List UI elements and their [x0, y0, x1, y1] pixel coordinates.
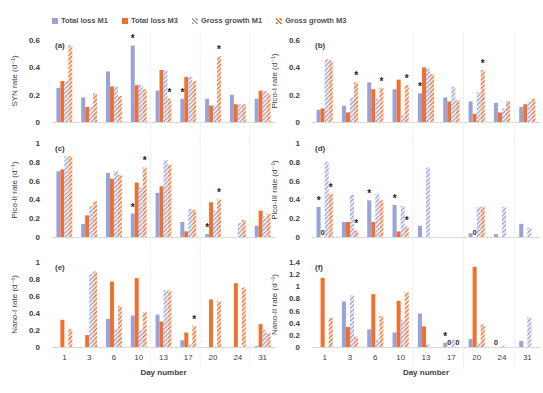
- bar-total-loss-m1: [180, 222, 184, 237]
- bar-gross-growth-m3: [405, 227, 409, 237]
- bar-total-loss-m3: [397, 231, 401, 237]
- bar-total-loss-m3: [209, 299, 213, 347]
- zero-value-label: 0: [321, 229, 325, 236]
- significance-marker: *: [393, 193, 397, 204]
- bar-total-loss-m1: [367, 82, 371, 122]
- bar-gross-growth-m3: [192, 210, 196, 237]
- significance-marker: *: [405, 215, 409, 226]
- bar-gross-growth-m3: [354, 230, 358, 237]
- bar-total-loss-m1: [180, 340, 184, 347]
- bar-gross-growth-m1: [401, 320, 405, 347]
- x-tick-label: 1: [62, 353, 67, 362]
- x-tick-label: 10: [396, 353, 405, 362]
- significance-marker: *: [205, 222, 209, 233]
- bar-total-loss-m3: [321, 108, 325, 122]
- y-tick-label: 0.4: [289, 195, 301, 204]
- bar-total-loss-m3: [85, 335, 89, 347]
- bar-gross-growth-m3: [242, 104, 246, 122]
- y-tick-label: 0.6: [289, 177, 301, 186]
- significance-marker: *: [143, 155, 147, 166]
- bar-gross-growth-m3: [143, 167, 147, 237]
- y-tick-label: 0.4: [289, 63, 301, 72]
- x-tick-label: 24: [498, 353, 507, 362]
- bar-total-loss-m1: [255, 346, 259, 347]
- bar-gross-growth-m1: [350, 295, 354, 347]
- bar-total-loss-m1: [367, 329, 371, 347]
- bar-gross-growth-m1: [238, 104, 242, 122]
- bar-gross-growth-m1: [139, 330, 143, 347]
- x-tick-label: 31: [258, 353, 267, 362]
- bar-total-loss-m1: [393, 332, 397, 347]
- y-tick-label: 0.6: [29, 36, 41, 45]
- significance-marker: *: [217, 44, 221, 55]
- y-tick-label: 1.2: [289, 270, 301, 279]
- significance-marker: *: [317, 195, 321, 206]
- bar-gross-growth-m1: [502, 207, 506, 237]
- significance-marker: *: [405, 73, 409, 84]
- zero-value-label: 0: [473, 229, 477, 236]
- bar-gross-growth-m1: [164, 290, 168, 347]
- bar-gross-growth-m3: [379, 88, 383, 122]
- bar-gross-growth-m1: [375, 194, 379, 237]
- bar-gross-growth-m3: [506, 102, 510, 123]
- bar-total-loss-m1: [56, 88, 60, 122]
- bar-gross-growth-m1: [527, 317, 531, 347]
- bar-total-loss-m3: [321, 278, 325, 347]
- bar-gross-growth-m3: [329, 318, 333, 347]
- significance-marker: *: [329, 182, 333, 193]
- bar-gross-growth-m1: [325, 59, 329, 122]
- bar-gross-growth-m3: [68, 45, 72, 122]
- bar-total-loss-m1: [519, 341, 523, 347]
- bar-gross-growth-m1: [114, 329, 118, 347]
- bar-gross-growth-m3: [329, 194, 333, 237]
- bar-total-loss-m3: [184, 333, 188, 347]
- bar-total-loss-m3: [422, 67, 426, 122]
- bar-gross-growth-m3: [405, 85, 409, 122]
- y-tick-label: 0.8: [289, 294, 301, 303]
- bar-gross-growth-m3: [217, 56, 221, 122]
- bar-total-loss-m3: [110, 86, 114, 122]
- bar-total-loss-m3: [259, 324, 263, 347]
- bar-gross-growth-m1: [502, 108, 506, 122]
- bar-total-loss-m1: [317, 110, 321, 122]
- bar-gross-growth-m3: [481, 70, 485, 122]
- bar-total-loss-m1: [393, 89, 397, 122]
- bar-gross-growth-m1: [114, 86, 118, 122]
- bar-gross-growth-m3: [192, 326, 196, 347]
- bar-total-loss-m1: [56, 171, 60, 237]
- bar-total-loss-m1: [205, 99, 209, 122]
- y-axis-label: Nano-II rate (d⁻¹): [270, 274, 279, 335]
- bar-total-loss-m3: [498, 112, 502, 122]
- y-tick-label: 0: [296, 118, 301, 127]
- bar-total-loss-m3: [184, 231, 188, 237]
- bar-total-loss-m1: [255, 99, 259, 122]
- x-tick-label: 13: [159, 353, 168, 362]
- y-tick-label: 0.4: [289, 319, 301, 328]
- bar-gross-growth-m3: [143, 89, 147, 122]
- bar-total-loss-m3: [346, 327, 350, 347]
- bar-gross-growth-m1: [188, 344, 192, 347]
- bar-total-loss-m1: [469, 339, 473, 347]
- panel-label: (c): [55, 144, 65, 153]
- significance-marker: *: [367, 188, 371, 199]
- significance-marker: *: [481, 58, 485, 69]
- x-axis-label: Day number: [140, 368, 186, 377]
- bar-total-loss-m3: [60, 81, 64, 122]
- significance-marker: *: [354, 70, 358, 81]
- bar-gross-growth-m1: [139, 187, 143, 237]
- x-tick-label: 13: [422, 353, 431, 362]
- bar-gross-growth-m1: [451, 86, 455, 122]
- y-tick-label: 0.4: [29, 309, 41, 318]
- zero-value-label: 0: [447, 339, 451, 346]
- y-tick-label: 1: [296, 282, 301, 291]
- significance-marker: *: [217, 187, 221, 198]
- y-tick-label: 0.2: [289, 331, 301, 340]
- bar-gross-growth-m3: [93, 93, 97, 122]
- panel-label: (b): [315, 41, 326, 50]
- y-tick-label: 0.4: [29, 195, 41, 204]
- bar-total-loss-m1: [156, 315, 160, 347]
- bar-gross-growth-m1: [89, 206, 93, 237]
- bar-total-loss-m3: [371, 89, 375, 122]
- x-tick-label: 1: [322, 353, 327, 362]
- bar-gross-growth-m1: [350, 97, 354, 122]
